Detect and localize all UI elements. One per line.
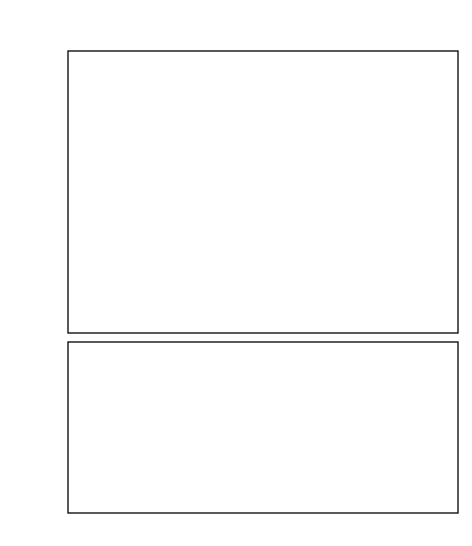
top-panel-frame (68, 51, 458, 333)
bottom-panel-frame (68, 342, 458, 513)
figure-canvas (0, 0, 472, 546)
